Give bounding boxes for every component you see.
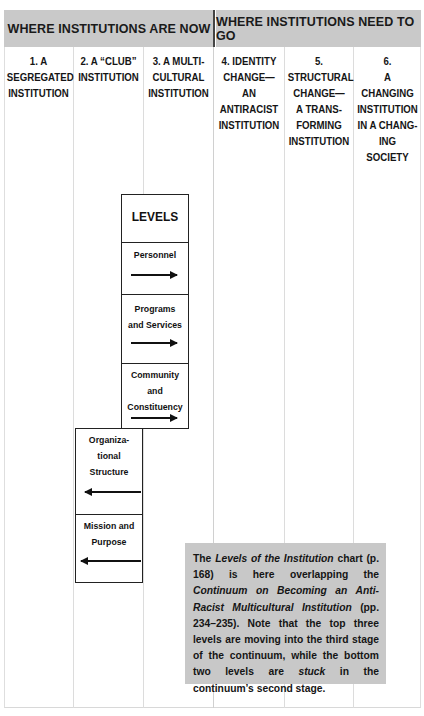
stage-4-line: ANTIRACIST <box>217 101 281 117</box>
levels-title-cell: LEVELS <box>122 195 188 242</box>
note-italic: stuck <box>298 666 325 677</box>
header-where-now: WHERE INSTITUTIONS ARE NOW <box>4 10 214 47</box>
stage-4-line: 4. IDENTITY <box>217 53 281 69</box>
stage-2-line: INSTITUTION <box>77 69 140 85</box>
header-where-now-label: WHERE INSTITUTIONS ARE NOW <box>8 22 211 36</box>
level-label: and <box>125 383 186 399</box>
stage-4-line: CHANGE— <box>217 69 281 85</box>
stage-5-line: INSTITUTION <box>288 133 351 149</box>
right-arrow-icon <box>131 274 177 276</box>
level-label: Purpose <box>79 534 140 550</box>
level-mission-purpose: Mission and Purpose <box>76 514 142 582</box>
note-italic: Levels of the Institution <box>215 553 333 564</box>
stage-5-line: FORMING <box>288 117 351 133</box>
level-personnel: Personnel <box>122 242 188 294</box>
levels-box: LEVELS Personnel Programs and Services C… <box>121 194 189 429</box>
stage-1-title: 1. A SEGREGATED INSTITUTION <box>7 53 70 101</box>
stage-6-line: ING SOCIETY <box>357 133 419 165</box>
stage-6-line: 6. <box>357 53 419 69</box>
stage-5-line: 5. <box>288 53 351 69</box>
stage-6-line: A CHANGING <box>357 69 419 101</box>
stage-3-line: CULTURAL <box>147 69 210 85</box>
stage-6-line: IN A CHANG- <box>357 117 419 133</box>
right-arrow-icon <box>131 342 177 344</box>
stage-5-title: 5. STRUCTURAL CHANGE— A TRANS- FORMING I… <box>288 53 351 149</box>
stage-6-line: INSTITUTION <box>357 101 419 117</box>
level-label: Organiza- <box>79 429 140 448</box>
note-text: The <box>193 553 215 564</box>
level-label: Personnel <box>125 243 186 263</box>
stage-5-line: STRUCTURAL <box>288 69 351 85</box>
stage-1-line: SEGREGATED <box>7 69 70 85</box>
stage-1-line: 1. A <box>7 53 70 69</box>
stage-3-title: 3. A MULTI- CULTURAL INSTITUTION <box>147 53 210 101</box>
level-label: Structure <box>79 464 140 480</box>
header-where-need-label: WHERE INSTITUTIONS NEED TO GO <box>216 15 421 43</box>
right-arrow-icon <box>131 417 177 419</box>
levels-title: LEVELS <box>125 195 186 225</box>
stage-4-line: INSTITUTION <box>217 117 281 133</box>
level-label: Programs <box>125 295 186 317</box>
stage-5-line: CHANGE— <box>288 85 351 101</box>
column-divider <box>73 47 74 708</box>
stage-6-title: 6. A CHANGING INSTITUTION IN A CHANG- IN… <box>357 53 419 165</box>
level-label: tional <box>79 448 140 464</box>
stage-4-title: 4. IDENTITY CHANGE— AN ANTIRACIST INSTIT… <box>217 53 281 133</box>
level-label: Mission and <box>79 515 140 534</box>
stage-2-title: 2. A “CLUB” INSTITUTION <box>77 53 140 85</box>
header-divider <box>213 10 215 47</box>
header-where-need-to-go: WHERE INSTITUTIONS NEED TO GO <box>216 10 421 47</box>
explanatory-note: The Levels of the Institution chart (p. … <box>185 543 386 684</box>
stuck-levels-box: Organiza- tional Structure Mission and P… <box>75 428 143 583</box>
stage-3-line: INSTITUTION <box>147 85 210 101</box>
stage-5-line: A TRANS- <box>288 101 351 117</box>
stage-1-line: INSTITUTION <box>7 85 70 101</box>
level-programs-services: Programs and Services <box>122 294 188 363</box>
level-label: Community <box>125 364 186 383</box>
left-arrow-icon <box>85 491 141 493</box>
level-label: and Services <box>125 317 186 333</box>
stage-2-line: 2. A “CLUB” <box>77 53 140 69</box>
left-arrow-icon <box>81 560 141 562</box>
stage-4-line: AN <box>217 85 281 101</box>
level-organizational-structure: Organiza- tional Structure <box>76 429 142 514</box>
level-community-constituency: Community and Constituency <box>122 363 188 427</box>
stage-3-line: 3. A MULTI- <box>147 53 210 69</box>
